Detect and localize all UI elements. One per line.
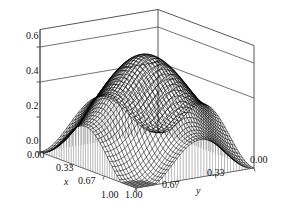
y-tick-label-2: 0.33 bbox=[207, 168, 225, 178]
z-tick-label-1: 0.4 bbox=[26, 66, 39, 76]
z-tick-label-0: 0.6 bbox=[26, 31, 39, 41]
y-tick-label-3: 0.00 bbox=[250, 155, 268, 165]
x-axis-label: x bbox=[64, 177, 68, 187]
z-tick-label-2: 0.2 bbox=[26, 101, 39, 111]
surface-plot-figure: 0.6 0.4 0.2 0.0 0.00 0.33 0.67 1.00 x 1.… bbox=[0, 0, 281, 219]
y-axis-label: y bbox=[196, 186, 200, 196]
y-tick-label-0: 1.00 bbox=[125, 190, 143, 200]
x-tick-label-3: 1.00 bbox=[101, 190, 119, 200]
surface-plot-canvas bbox=[0, 0, 281, 219]
x-tick-label-0: 0.00 bbox=[27, 150, 45, 160]
z-tick-label-3: 0.0 bbox=[26, 136, 39, 146]
x-tick-label-2: 0.67 bbox=[78, 176, 96, 186]
y-tick-label-1: 0.67 bbox=[162, 180, 180, 190]
x-tick-label-1: 0.33 bbox=[56, 163, 74, 173]
